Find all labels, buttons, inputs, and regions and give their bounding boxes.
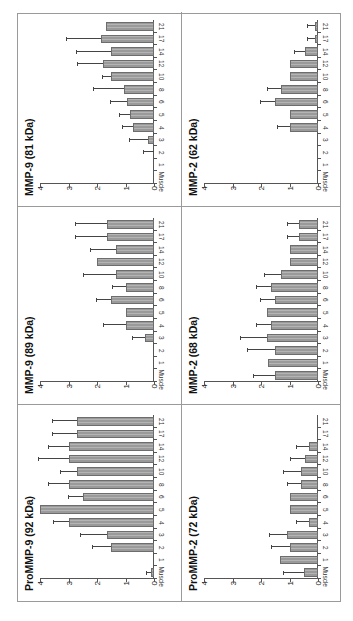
error-cap [52, 432, 53, 436]
y-tick-mark [290, 382, 291, 385]
bar-fill [151, 568, 154, 577]
y-tick-label: 1 [285, 186, 294, 194]
bar-10 [40, 268, 154, 281]
y-tick-label: 3 [228, 581, 237, 589]
y-tick-mark [126, 382, 127, 385]
bar-6 [40, 96, 154, 109]
x-tick-mark [318, 95, 321, 96]
bar-fill [69, 518, 155, 527]
error-cap [52, 419, 53, 423]
error-cap [296, 520, 297, 524]
error-cap [92, 545, 93, 549]
x-tick-label: 8 [158, 83, 165, 96]
error-cap [296, 445, 297, 449]
x-tick-mark [154, 318, 157, 319]
x-tick-mark [318, 490, 321, 491]
x-tick-mark [154, 305, 157, 306]
x-tick-label: 5 [158, 306, 165, 319]
x-tick-mark [318, 343, 321, 344]
y-tick-mark [318, 184, 319, 187]
plot-area: 01234 [40, 218, 154, 382]
error-cap [122, 125, 123, 129]
y-tick-label: 3 [64, 581, 73, 589]
y-tick-label: 3 [228, 186, 237, 194]
y-tick-mark [290, 579, 291, 582]
x-tick-mark [154, 69, 157, 70]
x-tick-label: 4 [158, 516, 165, 529]
bar-2 [40, 146, 154, 159]
error-cap [290, 457, 291, 461]
x-tick-label: 8 [158, 478, 165, 491]
x-tick-mark [154, 553, 157, 554]
y-tick-mark [97, 382, 98, 385]
x-tick-label: 21 [158, 218, 165, 231]
panel-title: ProMMP-2 (72 kDa) [187, 496, 199, 591]
bar-10 [40, 70, 154, 83]
error-bar [54, 521, 68, 522]
bar-fill [111, 47, 154, 56]
x-tick-label: 6 [322, 96, 329, 109]
bar-fill [315, 22, 318, 31]
bar-14 [204, 45, 318, 58]
x-tick-label: 4 [158, 319, 165, 332]
bar-fill [290, 123, 319, 132]
x-tick-mark [318, 69, 321, 70]
bar-21 [40, 20, 154, 33]
x-tick-mark [318, 280, 321, 281]
x-tick-mark [318, 120, 321, 121]
bar-21 [40, 218, 154, 231]
bar-21 [204, 20, 318, 33]
x-tick-mark [318, 368, 321, 369]
bar-21 [40, 415, 154, 428]
x-tick-label: Muscle [322, 369, 329, 382]
error-cap [60, 470, 61, 474]
y-tick-mark [290, 184, 291, 187]
bar-fill [280, 556, 318, 565]
x-tick-mark [154, 293, 157, 294]
y-tick-mark [261, 184, 262, 187]
x-tick-label: 1 [158, 554, 165, 567]
bar-3 [40, 332, 154, 345]
x-tick-mark [318, 331, 321, 332]
x-axis-labels: Muscle12345681012141721 [158, 20, 170, 184]
error-cap [146, 571, 147, 575]
x-tick-mark [154, 95, 157, 96]
x-tick-mark [154, 477, 157, 478]
error-bar [261, 299, 275, 300]
bar-4 [204, 516, 318, 529]
bar-fill [77, 467, 154, 476]
x-tick-mark [154, 170, 157, 171]
bar-fill [290, 258, 319, 267]
x-tick-label: 10 [322, 70, 329, 83]
error-bar [278, 126, 289, 127]
x-tick-label: 12 [322, 453, 329, 466]
bar-fill [77, 417, 154, 426]
x-tick-label: 3 [322, 529, 329, 542]
x-tick-label: 17 [158, 428, 165, 441]
x-tick-label: 14 [158, 45, 165, 58]
y-tick-label: 1 [121, 186, 130, 194]
y-tick-label: 3 [228, 384, 237, 392]
bar-2 [204, 541, 318, 554]
bar-fill [290, 245, 319, 254]
bar-fill [111, 72, 154, 81]
bar-fill [309, 518, 318, 527]
bar-fill [290, 505, 319, 514]
x-tick-label: 21 [158, 415, 165, 428]
bar-5 [204, 503, 318, 516]
bar-muscle [204, 369, 318, 382]
x-tick-mark [154, 267, 157, 268]
bar-14 [40, 45, 154, 58]
y-tick-mark [69, 382, 70, 385]
error-bar [284, 471, 301, 472]
y-tick-label: 1 [121, 581, 130, 589]
y-tick-mark [318, 579, 319, 582]
bar-muscle [204, 566, 318, 579]
x-tick-label: 12 [158, 58, 165, 71]
x-tick-label: 1 [322, 554, 329, 567]
x-tick-mark [318, 158, 321, 159]
bar-fill [287, 531, 318, 540]
error-cap [77, 62, 78, 66]
y-tick-mark [154, 184, 155, 187]
bar-fill [126, 283, 155, 292]
